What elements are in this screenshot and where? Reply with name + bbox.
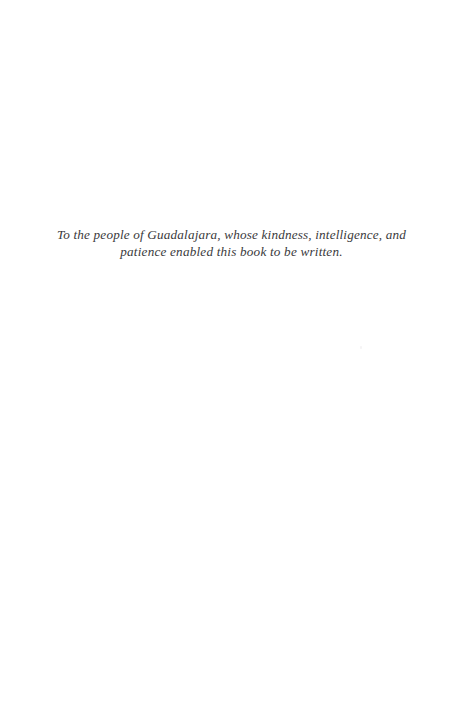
dedication-line-2: patience enabled this book to be written… [40, 243, 423, 260]
paper-speck-artifact [360, 346, 362, 349]
book-dedication-page: To the people of Guadalajara, whose kind… [0, 0, 463, 715]
dedication-text-block: To the people of Guadalajara, whose kind… [0, 226, 463, 260]
dedication-line-1: To the people of Guadalajara, whose kind… [40, 226, 423, 243]
